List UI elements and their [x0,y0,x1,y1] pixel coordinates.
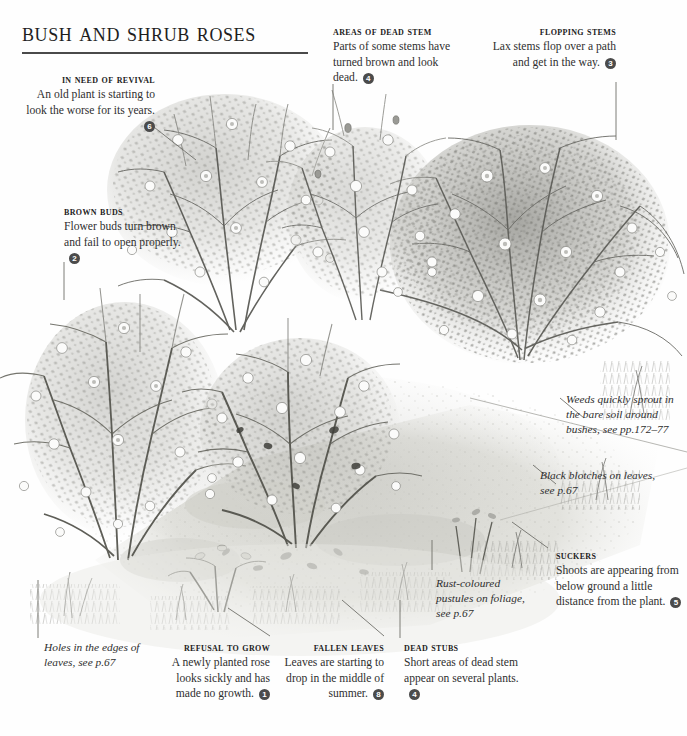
callout-areas-of-dead-stem: Areas of dead stem Parts of some stems h… [333,24,459,86]
callout-body: Leaves are starting to drop in the middl… [268,655,384,701]
callout-suckers: Suckers Shoots are appearing from below … [556,548,684,610]
callout-fallen-leaves: Fallen leaves Leaves are starting to dro… [268,640,384,702]
callout-brown-buds: Brown buds Flower buds turn brown and fa… [64,204,188,266]
callout-flopping-stems: Flopping stems Lax stems flop over a pat… [492,24,616,70]
page-root: Bush and shrub roses In need of revival … [0,0,687,736]
callout-heading: Refusal to grow [152,640,270,655]
callout-badge: 4 [409,689,420,700]
callout-refusal-to-grow: Refusal to grow A newly planted rose loo… [152,640,270,702]
callout-heading: Flopping stems [492,24,616,39]
callout-body: Shoots are appearing from below ground a… [556,563,684,609]
callout-body: An old plant is starting to look the wor… [20,87,155,133]
callout-heading: Fallen leaves [268,640,384,655]
callout-dead-stubs: Dead stubs Short areas of dead stem appe… [404,640,526,702]
callout-heading: Dead stubs [404,640,526,655]
callout-body: Short areas of dead stem appear on sever… [404,655,526,701]
title-underline-rule [22,52,308,54]
callout-heading: Suckers [556,548,684,563]
callout-badge: 5 [670,597,681,608]
callout-badge: 4 [363,73,374,84]
callout-badge: 6 [144,121,155,132]
callout-heading: In need of revival [20,72,155,87]
callout-heading: Areas of dead stem [333,24,459,39]
callout-body: A newly planted rose looks sickly and ha… [152,655,270,701]
callout-badge: 2 [69,253,80,264]
note-weeds: Weeds quickly sprout in the bare soil ar… [566,392,686,438]
callout-body: Lax stems flop over a path and get in th… [492,39,616,70]
callout-heading: Brown buds [64,204,188,219]
callout-badge: 8 [373,689,384,700]
callout-in-need-of-revival: In need of revival An old plant is start… [20,72,155,134]
note-rust-pustules: Rust-coloured pustules on foliage, see p… [436,576,540,622]
note-black-blotches: Black blotches on leaves, see p.67 [540,468,672,498]
callout-body: Flower buds turn brown and fail to open … [64,219,188,265]
note-holes-in-leaves: Holes in the edges of leaves, see p.67 [44,640,160,670]
callout-body: Parts of some stems have turned brown an… [333,39,459,85]
page-title: Bush and shrub roses [22,20,256,46]
callout-badge: 3 [605,58,616,69]
